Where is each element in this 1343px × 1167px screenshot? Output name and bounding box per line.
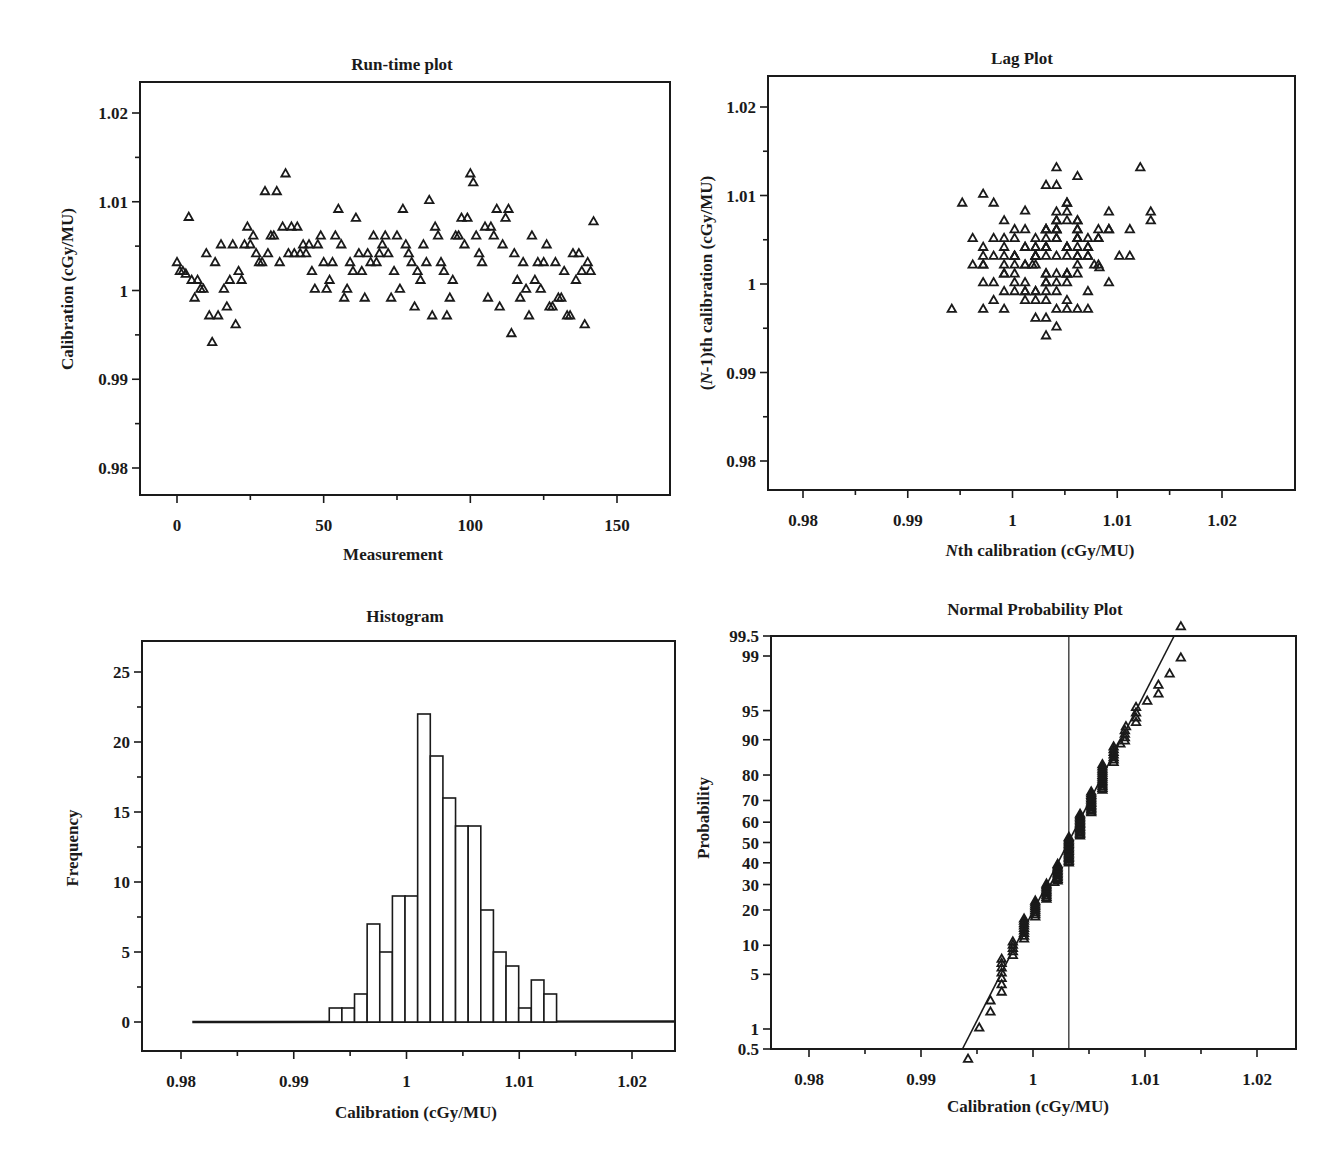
normal-probability-y-tick-label: 80 bbox=[742, 766, 759, 785]
normal-probability-point bbox=[986, 996, 994, 1003]
normal-probability-point bbox=[1177, 622, 1185, 629]
normal-probability-x-tick-label: 0.99 bbox=[906, 1070, 936, 1089]
normal-probability-y-axis-label: Probability bbox=[694, 777, 713, 859]
normal-probability-point bbox=[1165, 669, 1173, 676]
normal-probability-point bbox=[975, 1023, 983, 1030]
normal-probability-y-tick-label: 1 bbox=[751, 1020, 760, 1039]
normal-probability-x-axis-label: Calibration (cGy/MU) bbox=[947, 1097, 1109, 1116]
normal-probability-y-tick-label: 40 bbox=[742, 854, 759, 873]
normal-probability-frame bbox=[771, 636, 1296, 1049]
normal-probability-y-tick-label: 95 bbox=[742, 702, 759, 721]
normal-probability-point bbox=[1154, 689, 1162, 696]
normal-probability-y-tick-label: 30 bbox=[742, 876, 759, 895]
normal-probability-title: Normal Probability Plot bbox=[947, 600, 1123, 619]
normal-probability-y-tick-label: 50 bbox=[742, 834, 759, 853]
normal-probability-x-tick-label: 1.01 bbox=[1130, 1070, 1160, 1089]
normal-probability-x-tick-label: 0.98 bbox=[794, 1070, 824, 1089]
normal-probability-plot: Normal Probability Plot 0.980.9911.011.0… bbox=[0, 0, 1343, 1167]
normal-probability-y-tick-label: 5 bbox=[751, 965, 760, 984]
normal-probability-point bbox=[964, 1055, 972, 1062]
normal-probability-point bbox=[1154, 680, 1162, 687]
normal-probability-y-tick-label: 10 bbox=[742, 936, 759, 955]
normal-probability-y-tick-label: 0.5 bbox=[738, 1040, 759, 1059]
normal-probability-point bbox=[986, 1007, 994, 1014]
normal-probability-y-tick-label: 90 bbox=[742, 731, 759, 750]
normal-probability-y-tick-label: 20 bbox=[742, 901, 759, 920]
normal-probability-y-tick-label: 99 bbox=[742, 647, 759, 666]
normal-probability-x-tick-label: 1 bbox=[1029, 1070, 1038, 1089]
normal-probability-panel: Normal Probability Plot 0.980.9911.011.0… bbox=[0, 0, 1343, 1167]
normal-probability-point bbox=[1143, 696, 1151, 703]
normal-probability-axis-ticks: 0.980.9911.011.020.515102030405060708090… bbox=[729, 627, 1272, 1089]
normal-probability-data-points bbox=[964, 622, 1185, 1062]
normal-probability-x-tick-label: 1.02 bbox=[1242, 1070, 1272, 1089]
normal-probability-point bbox=[997, 987, 1005, 994]
normal-probability-y-tick-label: 60 bbox=[742, 813, 759, 832]
normal-probability-y-tick-label: 99.5 bbox=[729, 627, 759, 646]
normal-probability-point bbox=[1177, 653, 1185, 660]
normal-probability-y-tick-label: 70 bbox=[742, 791, 759, 810]
